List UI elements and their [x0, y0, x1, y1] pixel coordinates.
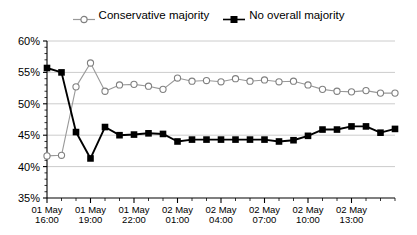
data-point — [319, 126, 326, 133]
data-point — [247, 136, 254, 143]
x-axis-tick-label: 16:00 — [35, 214, 59, 225]
y-axis-tick-label: 35% — [18, 192, 40, 204]
y-axis-tick-label: 40% — [18, 161, 40, 173]
data-point — [58, 69, 65, 76]
data-point — [174, 138, 181, 145]
data-point — [58, 152, 64, 158]
x-axis-tick-label: 13:00 — [340, 214, 364, 225]
y-axis-tick-label: 45% — [18, 129, 40, 141]
data-point — [218, 79, 224, 85]
data-point — [131, 81, 137, 87]
y-axis-labels: 35%40%45%50%55%60% — [18, 35, 40, 204]
x-axis-tick-label: 01:00 — [166, 214, 190, 225]
data-point — [232, 76, 238, 82]
y-axis-ticks — [43, 41, 47, 198]
data-point — [73, 129, 80, 136]
data-point — [160, 86, 166, 92]
data-point — [116, 82, 122, 88]
data-point — [348, 89, 354, 95]
data-point — [290, 137, 297, 144]
data-point — [392, 90, 398, 96]
data-point — [44, 65, 51, 72]
data-point — [145, 130, 152, 137]
plot-area: 35%40%45%50%55%60% 01 May16:0001 May19:0… — [0, 0, 417, 235]
data-point — [232, 136, 239, 143]
x-axis-tick-label: 19:00 — [79, 214, 103, 225]
data-point — [102, 88, 108, 94]
data-point — [377, 129, 384, 136]
data-point — [319, 86, 325, 92]
data-point — [218, 136, 225, 143]
x-axis-ticks — [47, 198, 395, 203]
y-axis-tick-label: 60% — [18, 35, 40, 47]
data-point — [145, 83, 151, 89]
gridlines — [47, 41, 395, 167]
x-axis-tick-label: 07:00 — [253, 214, 277, 225]
data-series-layer — [44, 60, 399, 162]
data-point — [189, 78, 195, 84]
data-point — [87, 60, 93, 66]
x-axis-tick-label: 10:00 — [296, 214, 320, 225]
data-point — [305, 82, 311, 88]
data-point — [261, 77, 267, 83]
data-point — [87, 155, 94, 162]
data-point — [189, 136, 196, 143]
data-point — [334, 126, 341, 133]
data-point — [392, 126, 399, 133]
data-point — [131, 131, 138, 138]
data-point — [276, 79, 282, 85]
data-point — [102, 124, 109, 131]
data-point — [261, 136, 268, 143]
y-axis-tick-label: 50% — [18, 98, 40, 110]
data-point — [363, 88, 369, 94]
data-point — [305, 133, 312, 140]
y-axis-tick-label: 55% — [18, 66, 40, 78]
data-point — [174, 75, 180, 81]
data-point — [334, 88, 340, 94]
data-point — [290, 78, 296, 84]
data-point — [73, 84, 79, 90]
x-axis-tick-label: 04:00 — [209, 214, 233, 225]
chart-container: Conservative majority No overall majorit… — [0, 0, 417, 235]
data-point — [116, 132, 123, 139]
data-point — [276, 138, 283, 145]
data-point — [203, 77, 209, 83]
x-axis-labels: 01 May16:0001 May19:0001 May22:0002 May0… — [31, 204, 367, 225]
data-point — [363, 123, 370, 130]
data-point — [247, 78, 253, 84]
data-point — [348, 123, 355, 130]
data-point — [377, 90, 383, 96]
data-point — [160, 131, 167, 138]
data-point — [44, 153, 50, 159]
x-axis-tick-label: 22:00 — [122, 214, 146, 225]
data-point — [203, 136, 210, 143]
